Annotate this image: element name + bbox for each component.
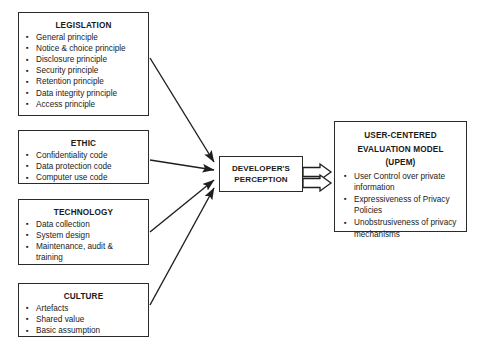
diagram-canvas: LEGISLATION General principle Notice & c… (0, 0, 482, 358)
block-arrows-to-upem (0, 0, 482, 358)
block-arrow-upper (303, 164, 331, 180)
block-arrow-lower (303, 175, 331, 191)
